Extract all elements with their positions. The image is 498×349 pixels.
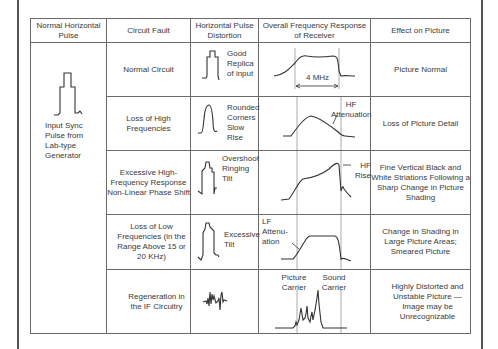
response-label: 4 MHz <box>306 73 329 83</box>
header-normal-pulse: Normal Horizontal Pulse <box>31 19 107 43</box>
picture-carrier-label: Picture Carrier <box>279 273 309 293</box>
distortion-cell: Excessive Tilt <box>191 215 259 270</box>
fault-cell: Excessive High-Frequency Response Non-Li… <box>107 151 191 215</box>
header-effect: Effect on Picture <box>371 19 471 43</box>
regeneration-waveform-icon <box>191 270 259 333</box>
header-pulse-distortion: Horizontal Pulse Distortion <box>191 19 259 43</box>
distortion-label: Rounded Corners Slow Rise <box>227 103 261 143</box>
effect-cell: Fine Vertical Black and White Striations… <box>371 151 471 215</box>
response-label: LF Attenu-ation <box>262 217 292 247</box>
response-cell: HF Attenuation <box>259 97 371 151</box>
fault-cell: Regeneration in the IF Circuitry <box>107 270 191 334</box>
fault-table: Normal Horizontal Pulse Circuit Fault Ho… <box>30 18 471 334</box>
distortion-label: Excessive Tilt <box>224 230 258 250</box>
header-frequency-response: Overall Frequency Response of Receiver <box>259 19 371 43</box>
table-row: Input Sync Pulse from Lab-type Generator… <box>31 43 471 97</box>
effect-cell: Loss of Picture Detail <box>371 97 471 151</box>
carrier-spikes-curve-icon <box>259 270 371 333</box>
fault-cell: Loss of Low Frequencies (in the Range Ab… <box>107 215 191 270</box>
response-cell: 4 MHz <box>259 43 371 97</box>
distortion-label: Overshoot Ringing Tilt <box>222 154 258 184</box>
fault-cell: Normal Circuit <box>107 43 191 97</box>
response-cell: LF Attenu-ation <box>259 215 371 270</box>
effect-cell: Highly Distorted and Unstable Picture — … <box>371 270 471 334</box>
response-cell: HF Rise <box>259 151 371 215</box>
effect-cell: Picture Normal <box>371 43 471 97</box>
distortion-cell <box>191 270 259 334</box>
response-label: HF Rise <box>353 161 371 181</box>
header-circuit-fault: Circuit Fault <box>107 19 191 43</box>
fault-cell: Loss of High Frequencies <box>107 97 191 151</box>
distortion-label: Good Replica of input <box>227 49 259 79</box>
table-header-row: Normal Horizontal Pulse Circuit Fault Ho… <box>31 19 471 43</box>
sound-carrier-label: Sound Carrier <box>319 273 349 293</box>
effect-cell: Change in Shading in Large Picture Areas… <box>371 215 471 270</box>
flat-response-curve-icon <box>259 43 371 96</box>
distortion-cell: Overshoot Ringing Tilt <box>191 151 259 215</box>
page-left-border <box>17 0 19 349</box>
distortion-cell: Good Replica of input <box>191 43 259 97</box>
response-label: HF Attenuation <box>331 100 371 120</box>
normal-pulse-cell: Input Sync Pulse from Lab-type Generator <box>31 43 107 334</box>
distortion-cell: Rounded Corners Slow Rise <box>191 97 259 151</box>
response-cell: Picture Carrier Sound Carrier <box>259 270 371 334</box>
normal-pulse-caption: Input Sync Pulse from Lab-type Generator <box>45 121 93 161</box>
page-right-border <box>481 0 483 349</box>
